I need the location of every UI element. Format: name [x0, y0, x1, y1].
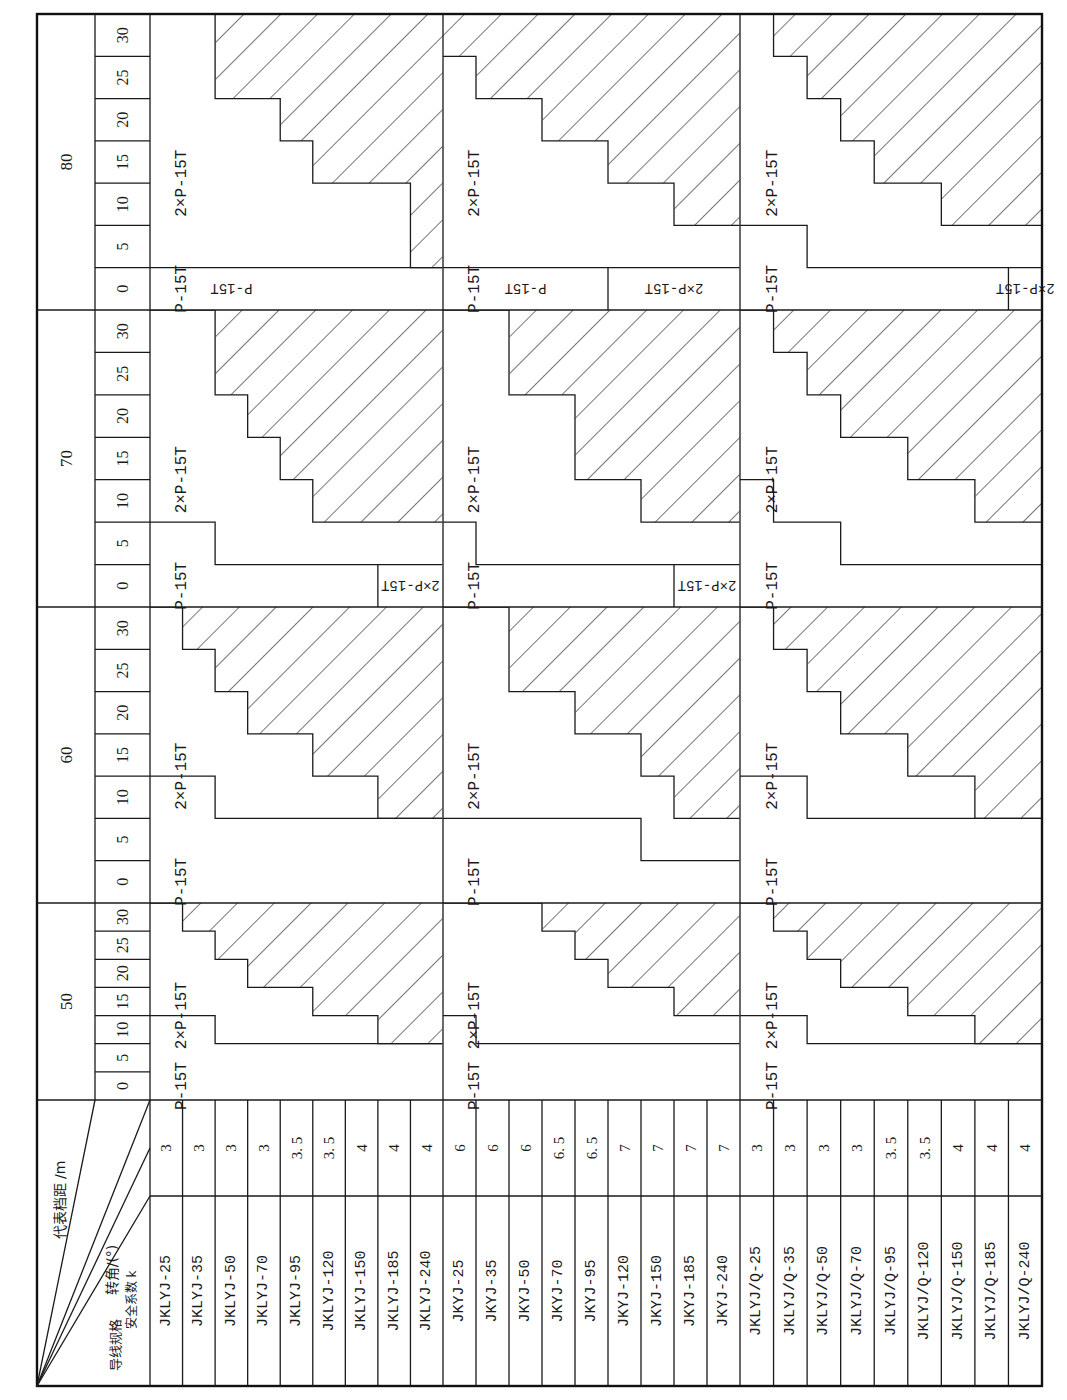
conductor-spec: JKYJ-120	[616, 1255, 633, 1327]
conductor-spec: JKLYJ/Q-240	[1017, 1241, 1034, 1340]
safety-factor-value: 3	[191, 1144, 207, 1152]
table-cell-span-50-jkyj: P-15T2×P-15T	[443, 903, 741, 1110]
table-cell-span-80-jkyj: P-15T2×P-15T2×P-15TP-15T	[443, 14, 741, 313]
angle-tick-0: 0	[114, 1082, 131, 1090]
conductor-spec: JKLYJ-185	[386, 1250, 403, 1331]
safety-factor-value: 3. 5	[321, 1137, 337, 1160]
safety-factor-value: 6	[485, 1144, 501, 1152]
region-label-single: P-15T	[764, 265, 782, 313]
conductor-spec: JKYJ-70	[550, 1259, 567, 1322]
conductor-spec: JKLYJ/Q-25	[748, 1246, 765, 1336]
angle-tick-20: 20	[114, 408, 131, 424]
safety-factor-value: 3	[158, 1144, 174, 1152]
corner-label-spec: 导线规格	[108, 1319, 123, 1371]
region-label-single: P-15T	[466, 1062, 484, 1110]
region-label-single: P-15T	[173, 265, 191, 313]
conductor-spec: JKLYJ/Q-150	[950, 1241, 967, 1340]
cells-layer: P-15T2×P-15TP-15T2×P-15TP-15T2×P-15TP-15…	[150, 14, 1055, 1110]
safety-factor-value: 3. 5	[289, 1137, 305, 1160]
conductor-spec: JKLYJ-95	[288, 1255, 305, 1327]
conductor-spec: JKYJ-240	[715, 1255, 732, 1327]
safety-factor-value: 3	[749, 1144, 765, 1152]
angle-tick-20: 20	[114, 965, 131, 981]
safety-factor-value: 6. 5	[551, 1137, 567, 1160]
angle-tick-25: 25	[114, 69, 131, 85]
region-label-double: 2×P-15T	[466, 446, 484, 513]
conductor-spec: JKYJ-25	[451, 1259, 468, 1322]
safety-factor-value: 3	[849, 1144, 865, 1152]
region-label-double: 2×P-15T	[173, 150, 191, 217]
safety-factor-value: 4	[419, 1144, 435, 1152]
conductor-spec: JKLYJ-120	[321, 1250, 338, 1331]
angle-tick-20: 20	[114, 705, 131, 721]
angle-tick-10: 10	[114, 196, 131, 212]
span-label-80: 80	[57, 154, 76, 171]
region-label-double-zero: 2×P-15T	[381, 577, 440, 593]
region-label-single: P-15T	[466, 265, 484, 313]
angle-tick-15: 15	[114, 154, 131, 170]
angle-tick-5: 5	[114, 836, 131, 844]
safety-factor-value: 3	[816, 1144, 832, 1152]
table-cell-span-60-jkyj: P-15T2×P-15T	[443, 607, 741, 906]
safety-factor-value: 6. 5	[584, 1137, 600, 1160]
table-cell-span-70-jklyj-q: P-15T2×P-15T	[740, 310, 1043, 610]
conductor-spec: JKLYJ-50	[223, 1255, 240, 1327]
region-label-double: 2×P-15T	[466, 743, 484, 810]
region-label-single: P-15T	[466, 562, 484, 610]
angle-tick-30: 30	[114, 323, 131, 339]
table-cell-span-70-jkyj: P-15T2×P-15T2×P-15T	[443, 310, 741, 610]
safety-factor-value: 4	[386, 1144, 402, 1152]
safety-factor-value: 3. 5	[917, 1137, 933, 1160]
safety-factor-value: 4	[1017, 1144, 1033, 1152]
region-label-double-zero: 2×P-15T	[678, 577, 737, 593]
safety-factor-value: 6	[518, 1144, 534, 1152]
region-label-single: P-15T	[173, 858, 191, 906]
conductor-spec: JKYJ-185	[682, 1255, 699, 1327]
corner-label-span: 代表档距 /m	[52, 1161, 68, 1240]
angle-tick-20: 20	[114, 112, 131, 128]
angle-tick-25: 25	[114, 937, 131, 953]
table-cell-span-60-jklyj: P-15T2×P-15T	[150, 607, 444, 906]
safety-factor-value: 6	[452, 1144, 468, 1152]
region-label-double: 2×P-15T	[173, 982, 191, 1049]
angle-tick-25: 25	[114, 366, 131, 382]
region-label-double: 2×P-15T	[764, 743, 782, 810]
safety-factor-value: 7	[683, 1144, 699, 1152]
table-cell-span-80-jklyj-q: P-15T2×P-15T2×P-15T	[740, 14, 1055, 313]
span-label-60: 60	[57, 747, 76, 764]
table-cell-span-80-jklyj: P-15T2×P-15TP-15T	[150, 14, 444, 313]
angle-tick-10: 10	[114, 789, 131, 805]
conductor-spec: JKYJ-95	[583, 1259, 600, 1322]
conductor-spec: JKLYJ/Q-70	[849, 1246, 866, 1336]
conductor-spec: JKLYJ-25	[158, 1255, 175, 1327]
angle-tick-5: 5	[114, 1054, 131, 1062]
corner-diagonal	[37, 1100, 150, 1386]
region-label-double: 2×P-15T	[173, 446, 191, 513]
conductor-spec: JKYJ-35	[484, 1259, 501, 1322]
region-label-double: 2×P-15T	[466, 150, 484, 217]
region-label-single-zero: P-15T	[504, 280, 546, 296]
safety-factor-value: 7	[716, 1144, 732, 1152]
angle-tick-15: 15	[114, 994, 131, 1010]
angle-tick-30: 30	[114, 620, 131, 636]
safety-factor-value: 3. 5	[883, 1137, 899, 1160]
region-label-double: 2×P-15T	[173, 743, 191, 810]
region-label-single: P-15T	[173, 562, 191, 610]
span-label-50: 50	[57, 993, 76, 1010]
conductor-spec: JKLYJ-35	[190, 1255, 207, 1327]
angle-tick-10: 10	[114, 493, 131, 509]
region-label-double: 2×P-15T	[466, 982, 484, 1049]
angle-tick-0: 0	[114, 582, 131, 590]
conductor-spec: JKLYJ-150	[353, 1250, 370, 1331]
angle-tick-0: 0	[114, 285, 131, 293]
angle-tick-25: 25	[114, 662, 131, 678]
rotated-hardware-selection-table: P-15T2×P-15TP-15T2×P-15TP-15T2×P-15TP-15…	[0, 0, 1067, 1400]
safety-factor-value: 7	[650, 1144, 666, 1152]
region-label-single: P-15T	[764, 858, 782, 906]
conductor-spec: JKLYJ/Q-120	[916, 1241, 933, 1340]
conductor-spec: JKLYJ-240	[418, 1250, 435, 1331]
conductor-spec: JKLYJ/Q-35	[782, 1246, 799, 1336]
angle-tick-15: 15	[114, 747, 131, 763]
angle-tick-0: 0	[114, 878, 131, 886]
angle-tick-30: 30	[114, 27, 131, 43]
